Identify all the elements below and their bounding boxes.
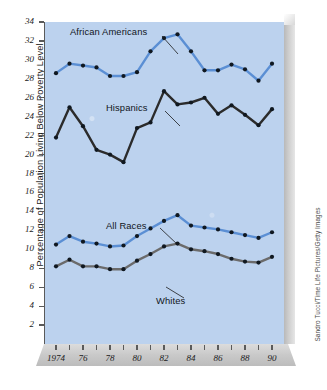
- data-point-all-races: [229, 230, 233, 234]
- data-point-whites: [162, 244, 166, 248]
- y-tick-label: 32: [8, 36, 34, 45]
- data-point-all-races: [148, 226, 152, 230]
- data-point-whites: [216, 252, 220, 256]
- data-point-all-races: [189, 224, 193, 228]
- x-tick: [204, 345, 205, 350]
- data-point-all-races: [108, 244, 112, 248]
- data-point-african-americans: [256, 79, 260, 83]
- data-point-hispanics: [189, 100, 193, 104]
- data-point-african-americans: [202, 68, 206, 72]
- data-point-whites: [94, 264, 98, 268]
- data-point-hispanics: [121, 160, 125, 164]
- y-tick-label: 4: [8, 301, 34, 310]
- data-point-all-races: [81, 240, 85, 244]
- data-point-hispanics: [81, 124, 85, 128]
- data-point-whites: [243, 260, 247, 264]
- data-point-all-races: [175, 213, 179, 217]
- x-tick: [55, 345, 56, 350]
- y-tick-label: 18: [8, 169, 34, 178]
- y-tick-label: 2: [8, 320, 34, 329]
- x-tick: [271, 345, 272, 350]
- y-tick-label: 30: [8, 55, 34, 64]
- data-point-whites: [67, 258, 71, 262]
- data-point-african-americans: [175, 32, 179, 36]
- x-tick: [123, 345, 124, 350]
- photo-credit: Sandro Tucci/Time Life Pictures/Getty Im…: [314, 182, 321, 342]
- y-tick-label: 20: [8, 150, 34, 159]
- data-point-hispanics: [243, 113, 247, 117]
- x-tick: [136, 345, 137, 350]
- y-tick-label: 22: [8, 131, 34, 140]
- data-point-all-races: [94, 242, 98, 246]
- data-point-hispanics: [216, 112, 220, 116]
- data-point-whites: [189, 247, 193, 251]
- data-point-all-races: [202, 225, 206, 229]
- data-point-african-americans: [121, 74, 125, 78]
- chart-panel: 343230282624222018161412108642 197476788…: [44, 14, 296, 360]
- data-point-all-races: [243, 233, 247, 237]
- x-tick: [69, 345, 70, 350]
- data-point-all-races: [67, 234, 71, 238]
- leader-line-all-races: [160, 228, 178, 245]
- data-point-all-races: [135, 234, 139, 238]
- data-point-african-americans: [216, 68, 220, 72]
- data-point-african-americans: [148, 49, 152, 53]
- panel-bevel-corner: [284, 14, 295, 25]
- x-tick: [177, 345, 178, 350]
- y-tick-label: 14: [8, 206, 34, 215]
- y-tick-label: 10: [8, 244, 34, 253]
- data-point-whites: [121, 267, 125, 271]
- x-tick: [96, 345, 97, 350]
- data-point-hispanics: [256, 123, 260, 127]
- data-point-whites: [135, 259, 139, 263]
- y-tick-label: 16: [8, 187, 34, 196]
- data-point-african-americans: [270, 62, 274, 66]
- x-tick: [244, 345, 245, 350]
- data-point-all-races: [54, 242, 58, 246]
- data-point-whites: [229, 257, 233, 261]
- y-tick-label: 24: [8, 112, 34, 121]
- data-point-hispanics: [270, 107, 274, 111]
- data-point-hispanics: [94, 148, 98, 152]
- data-point-african-americans: [54, 71, 58, 75]
- panel-bevel-right: [284, 14, 295, 344]
- series-label-all-races: All Races: [106, 220, 147, 231]
- y-tick-label: 26: [8, 93, 34, 102]
- x-tick: [231, 345, 232, 350]
- data-point-african-americans: [108, 74, 112, 78]
- y-tick-label: 34: [8, 17, 34, 26]
- x-tick: [150, 345, 151, 350]
- leader-line-african-americans: [162, 36, 178, 54]
- chart-figure: Percentage of Population Living Below Po…: [0, 0, 327, 390]
- data-point-african-americans: [94, 65, 98, 69]
- series-label-hispanics: Hispanics: [106, 102, 148, 113]
- data-point-whites: [54, 264, 58, 268]
- x-tick: [217, 345, 218, 350]
- series-line-hispanics: [56, 91, 272, 162]
- x-tick-label: 90: [252, 354, 292, 363]
- data-point-african-americans: [189, 49, 193, 53]
- data-point-all-races: [270, 230, 274, 234]
- data-point-hispanics: [162, 89, 166, 93]
- data-point-hispanics: [229, 103, 233, 107]
- x-tick: [258, 345, 259, 350]
- series-line-african-americans: [56, 34, 272, 80]
- data-point-all-races: [256, 236, 260, 240]
- data-point-hispanics: [67, 105, 71, 109]
- data-point-all-races: [162, 219, 166, 223]
- data-point-african-americans: [135, 70, 139, 74]
- y-tick-label: 6: [8, 282, 34, 291]
- data-point-hispanics: [135, 126, 139, 130]
- data-point-african-americans: [81, 63, 85, 67]
- data-point-whites: [148, 252, 152, 256]
- data-point-whites: [81, 264, 85, 268]
- data-point-whites: [202, 249, 206, 253]
- data-point-hispanics: [175, 102, 179, 106]
- leader-line-hispanics: [165, 111, 180, 126]
- data-point-hispanics: [108, 152, 112, 156]
- series-label-whites: Whites: [156, 295, 185, 306]
- data-point-whites: [108, 267, 112, 271]
- data-point-african-americans: [67, 62, 71, 66]
- series-label-african-americans: African Americans: [70, 26, 147, 37]
- y-tick-label: 12: [8, 225, 34, 234]
